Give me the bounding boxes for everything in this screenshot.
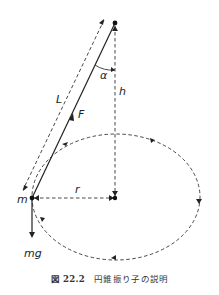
figure-caption: 図 22.2 円錐振り子の説明: [0, 272, 219, 284]
gravity-arrow-head: [29, 232, 35, 238]
label-L: L: [56, 93, 62, 106]
orbit-arrow-top-right: [150, 138, 155, 143]
L-arrow-top: [99, 19, 104, 25]
label-mg: mg: [24, 247, 42, 260]
label-r: r: [75, 183, 81, 196]
h-arrow-bottom: [112, 191, 118, 196]
label-alpha: α: [100, 69, 108, 82]
alpha-arrow: [111, 67, 115, 72]
L-arrow-bottom: [23, 185, 28, 191]
orbit-arrow-bottom: [111, 255, 116, 260]
pivot-point: [113, 21, 118, 26]
orbit-arrow-left-lower: [40, 217, 45, 222]
center-point: [113, 196, 117, 200]
caption-text: 円錐振り子の説明: [94, 274, 168, 284]
pendulum-string: [32, 23, 115, 198]
label-F: F: [78, 108, 85, 121]
label-h: h: [119, 85, 126, 98]
caption-number: 図 22.2: [51, 274, 85, 284]
label-m: m: [17, 193, 28, 206]
r-arrow-left: [34, 195, 39, 201]
orbit-arrow-right: [196, 199, 202, 204]
length-dimension-line: [23, 20, 104, 190]
conical-pendulum-diagram: α h L F r m mg: [0, 0, 219, 295]
mass-point: [30, 196, 35, 201]
